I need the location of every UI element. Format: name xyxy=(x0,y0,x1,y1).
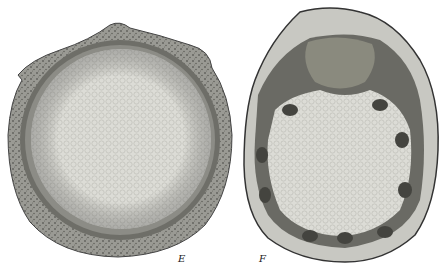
panel-label-f: F xyxy=(259,253,266,264)
micrograph-plate xyxy=(0,0,442,271)
panel-f-section xyxy=(244,8,438,262)
panel-e-section xyxy=(8,23,232,257)
panel-label-e: E xyxy=(178,253,185,264)
